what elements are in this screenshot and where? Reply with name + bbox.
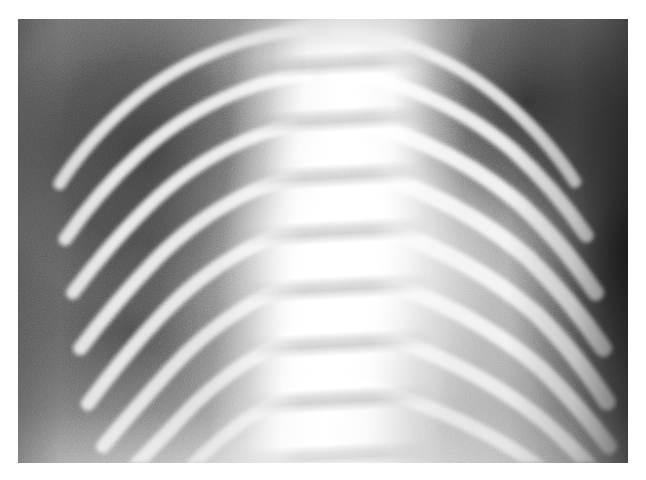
page-canvas [0,0,646,480]
chest-xray-image [18,19,628,463]
film-grain-texture [18,19,628,463]
